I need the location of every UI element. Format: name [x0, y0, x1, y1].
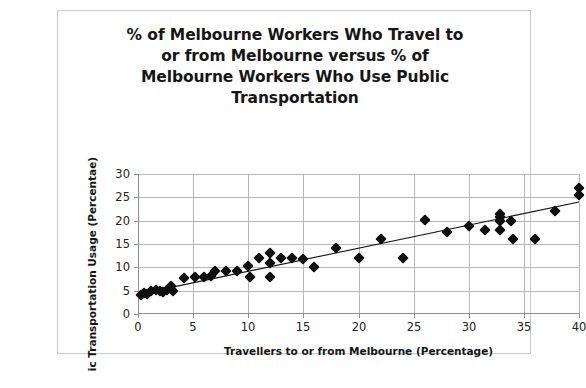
- y-tick-label: 25: [115, 190, 130, 204]
- x-axis-title: Travellers to or from Melbourne (Percent…: [138, 345, 579, 357]
- x-tick-mark: [138, 314, 139, 318]
- x-tick-label: 35: [517, 320, 532, 334]
- plot-area: 051015202530 0510152025303540: [138, 174, 579, 314]
- plot-inner: 051015202530 0510152025303540: [138, 174, 579, 314]
- y-tick-label: 20: [115, 214, 130, 228]
- x-tick-mark: [524, 314, 525, 318]
- y-axis-title: ic Transportation Usage (Percentae): [86, 157, 98, 371]
- x-tick-mark: [414, 314, 415, 318]
- x-tick-mark: [359, 314, 360, 318]
- x-tick-label: 20: [352, 320, 367, 334]
- chart-figure-frame: % of Melbourne Workers Who Travel to or …: [57, 10, 531, 354]
- x-tick-mark: [303, 314, 304, 318]
- x-tick-label: 5: [189, 320, 196, 334]
- x-tick-label: 0: [134, 320, 141, 334]
- x-tick-label: 10: [241, 320, 256, 334]
- x-tick-mark: [469, 314, 470, 318]
- x-tick-label: 15: [296, 320, 311, 334]
- x-tick-mark: [579, 314, 580, 318]
- chart-title-line-4: Transportation: [58, 88, 532, 109]
- chart-title-line-2: or from Melbourne versus % of: [58, 46, 532, 67]
- x-tick-label: 25: [407, 320, 422, 334]
- y-axis-title-container: ic Transportation Usage (Percentae): [80, 174, 104, 354]
- y-tick-label: 0: [123, 307, 130, 321]
- x-tick-label: 40: [572, 320, 586, 334]
- x-tick-mark: [248, 314, 249, 318]
- chart-title-line-3: Melbourne Workers Who Use Public: [58, 67, 532, 88]
- chart-title-line-1: % of Melbourne Workers Who Travel to: [58, 25, 532, 46]
- y-tick-label: 30: [115, 167, 130, 181]
- y-tick-label: 5: [123, 284, 130, 298]
- chart-title: % of Melbourne Workers Who Travel to or …: [58, 25, 532, 109]
- y-tick-label: 15: [115, 237, 130, 251]
- x-tick-label: 30: [462, 320, 477, 334]
- x-tick-mark: [193, 314, 194, 318]
- y-tick-label: 10: [115, 260, 130, 274]
